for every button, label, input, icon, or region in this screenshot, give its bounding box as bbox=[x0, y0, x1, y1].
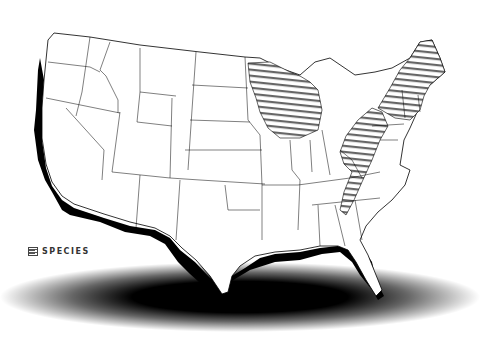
map-legend: SPECIES bbox=[28, 247, 90, 256]
map-stage: SPECIES bbox=[0, 0, 480, 339]
us-map bbox=[0, 0, 480, 339]
legend-label-species: SPECIES bbox=[42, 247, 90, 256]
hatch-swatch-icon bbox=[28, 247, 38, 256]
